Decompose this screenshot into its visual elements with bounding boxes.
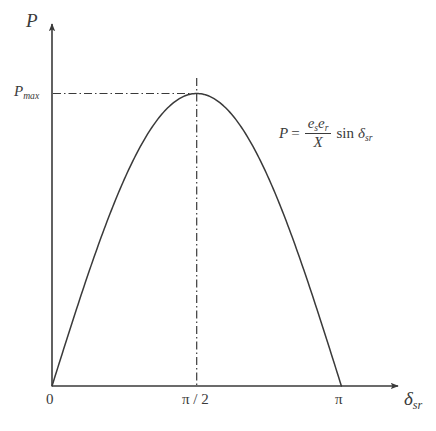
numerator-term-2: e bbox=[318, 115, 325, 131]
angle-variable-subscript: sr bbox=[365, 132, 372, 143]
pmax-base: P bbox=[14, 83, 23, 99]
equation-angle-variable: δsr bbox=[358, 125, 372, 142]
plot-curve-layer bbox=[0, 0, 436, 431]
x-axis-title: δsr bbox=[404, 389, 422, 408]
x-axis-title-base: δ bbox=[404, 388, 413, 409]
equation-fraction: eser X bbox=[305, 116, 332, 151]
y-axis-title: P bbox=[26, 11, 38, 30]
pmax-subscript: max bbox=[23, 90, 39, 101]
equation-lhs: P bbox=[279, 125, 288, 142]
x-tick-label-half-pi: π / 2 bbox=[182, 392, 209, 407]
equation-numerator: eser bbox=[305, 116, 332, 133]
x-axis-title-subscript: sr bbox=[413, 398, 422, 412]
equation-sin-function: sin bbox=[336, 125, 354, 142]
equation-denominator: X bbox=[310, 134, 325, 151]
equation-equals-sign: = bbox=[291, 125, 299, 142]
power-equation: P = eser X sin δsr bbox=[279, 116, 372, 151]
numerator-term-1-subscript: s bbox=[314, 122, 318, 133]
angle-variable-base: δ bbox=[358, 125, 365, 141]
numerator-term-2-subscript: r bbox=[325, 122, 329, 133]
power-angle-figure: P Pmax 0 π / 2 π δsr P = eser X sin δsr bbox=[0, 0, 436, 431]
x-tick-label-0: 0 bbox=[46, 392, 54, 407]
x-tick-label-pi: π bbox=[335, 392, 343, 407]
y-tick-label-pmax: Pmax bbox=[14, 84, 39, 99]
